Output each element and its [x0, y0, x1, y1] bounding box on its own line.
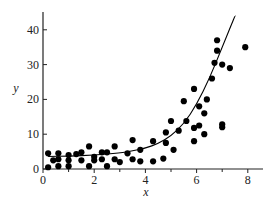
data-point: [163, 129, 169, 135]
data-point: [209, 75, 215, 81]
x-tick-label: 0: [40, 173, 46, 187]
y-tick-label: 0: [33, 162, 39, 176]
data-point: [124, 150, 130, 156]
data-point: [163, 140, 169, 146]
data-point: [78, 157, 84, 163]
data-point: [55, 156, 61, 162]
data-point: [55, 150, 61, 156]
x-tick-label: 8: [245, 173, 251, 187]
data-point: [204, 96, 210, 102]
y-axis-label: y: [12, 81, 19, 95]
data-point: [104, 163, 110, 169]
scatter-chart: 02468010203040 x y: [0, 0, 277, 207]
data-point: [45, 164, 51, 170]
data-point: [219, 124, 225, 130]
y-tick-label: 20: [27, 92, 39, 106]
data-point: [150, 138, 156, 144]
data-point: [50, 157, 56, 163]
data-point: [137, 158, 143, 164]
data-point: [86, 143, 92, 149]
data-point: [170, 147, 176, 153]
y-tick-label: 30: [27, 58, 39, 72]
data-point: [214, 48, 220, 54]
data-point: [55, 163, 61, 169]
data-point: [242, 44, 248, 50]
data-point: [191, 138, 197, 144]
data-point: [227, 65, 233, 71]
data-point: [196, 122, 202, 128]
data-point: [117, 159, 123, 165]
data-point: [176, 128, 182, 134]
data-point: [104, 149, 110, 155]
data-point: [112, 143, 118, 149]
data-point: [45, 150, 51, 156]
data-point: [130, 156, 136, 162]
data-point: [201, 131, 207, 137]
data-point: [191, 86, 197, 92]
data-point: [150, 158, 156, 164]
axes: 02468010203040: [27, 12, 263, 187]
data-point: [160, 155, 166, 161]
data-point: [78, 149, 84, 155]
y-tick-label: 10: [27, 127, 39, 141]
x-tick-label: 6: [194, 173, 200, 187]
data-point: [66, 163, 72, 169]
y-tick-label: 40: [27, 23, 39, 37]
data-point: [91, 157, 97, 163]
data-point: [219, 62, 225, 68]
data-point: [211, 60, 217, 66]
data-point: [130, 137, 136, 143]
x-axis-label: x: [142, 185, 149, 199]
x-tick-label: 2: [91, 173, 97, 187]
data-point: [168, 118, 174, 124]
data-point: [137, 147, 143, 153]
data-point: [201, 110, 207, 116]
data-point: [86, 163, 92, 169]
data-point: [214, 37, 220, 43]
data-point: [99, 156, 105, 162]
data-point: [66, 157, 72, 163]
data-point: [183, 118, 189, 124]
data-point: [181, 98, 187, 104]
data-point: [196, 103, 202, 109]
plot-area: 02468010203040 x y: [0, 0, 277, 207]
